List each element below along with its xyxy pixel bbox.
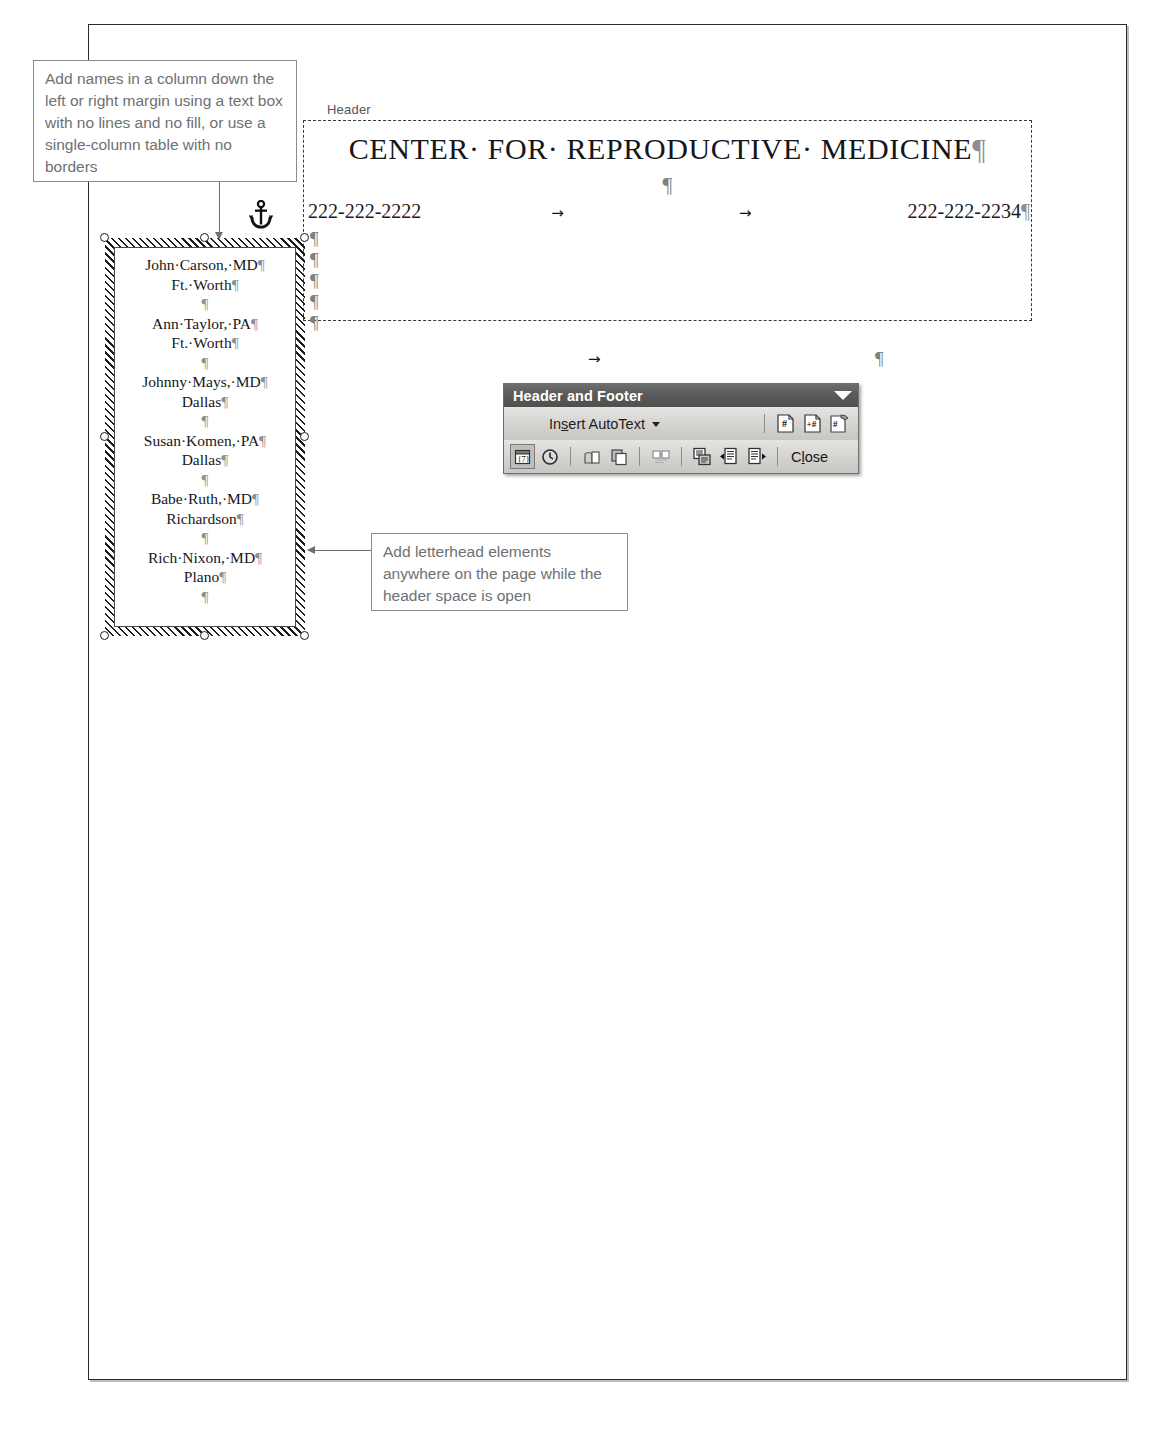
- header-region-label: Header: [323, 102, 375, 117]
- switch-header-footer-icon: [692, 446, 713, 467]
- resize-handle-bottom-left[interactable]: [100, 631, 109, 640]
- callout-add-letterhead-text: Add letterhead elements anywhere on the …: [383, 541, 617, 607]
- pilcrow-mark: ¶: [972, 132, 986, 165]
- toolbar-row-2: {7}: [504, 440, 858, 473]
- blank-line: ¶: [117, 294, 293, 314]
- show-hide-document-text-button[interactable]: [606, 444, 631, 469]
- insert-time-button[interactable]: [537, 444, 562, 469]
- insert-autotext-button[interactable]: Insert AutoText: [549, 416, 660, 432]
- list-item: Johnny·Mays,·MD¶: [117, 372, 293, 392]
- pilcrow-mark: ¶: [255, 549, 262, 566]
- page-setup-button[interactable]: [579, 444, 604, 469]
- doctor-name: John·Carson,·MD: [145, 256, 257, 273]
- pilcrow-mark: ¶: [310, 249, 319, 270]
- toolbar-title: Header and Footer: [513, 388, 643, 404]
- svg-text:#: #: [782, 418, 787, 429]
- pilcrow-mark: ¶: [310, 291, 319, 312]
- chevron-down-icon[interactable]: [652, 422, 660, 427]
- pilcrow-mark: ¶: [251, 315, 258, 332]
- toolbar-title-bar[interactable]: Header and Footer: [504, 384, 858, 407]
- pilcrow-mark: ¶: [201, 354, 208, 371]
- show-previous-button[interactable]: [717, 444, 742, 469]
- header-and-footer-toolbar[interactable]: Header and Footer Insert AutoText # +# #: [503, 383, 859, 474]
- resize-handle-bottom-right[interactable]: [300, 631, 309, 640]
- doctor-city: Richardson: [166, 510, 237, 527]
- page-number-icon: #: [775, 413, 796, 434]
- pilcrow-mark: ¶: [258, 256, 265, 273]
- calendar-icon: {7}: [513, 447, 533, 467]
- format-page-number-icon: #: [829, 413, 850, 434]
- toolbar-separator: [570, 447, 571, 466]
- show-next-button[interactable]: [744, 444, 769, 469]
- callout-add-letterhead: Add letterhead elements anywhere on the …: [371, 533, 628, 611]
- blank-line: ¶: [117, 411, 293, 431]
- pilcrow-mark: ¶: [201, 471, 208, 488]
- close-button[interactable]: Close: [791, 449, 828, 465]
- doctor-name: Susan·Komen,·PA: [144, 432, 259, 449]
- callout-add-names-text: Add names in a column down the left or r…: [45, 68, 286, 178]
- svg-text:#: #: [833, 419, 838, 429]
- resize-handle-middle-left[interactable]: [100, 432, 109, 441]
- resize-handle-bottom-center[interactable]: [200, 631, 209, 640]
- list-item: Ft.·Worth¶: [117, 275, 293, 295]
- list-item: Ann·Taylor,·PA¶: [117, 314, 293, 334]
- names-list[interactable]: John·Carson,·MD¶ Ft.·Worth¶ ¶ Ann·Taylor…: [117, 250, 293, 624]
- same-as-previous-button[interactable]: [648, 444, 673, 469]
- toolbar-separator: [681, 447, 682, 466]
- list-item: John·Carson,·MD¶: [117, 255, 293, 275]
- pilcrow-mark: ¶: [310, 270, 319, 291]
- insert-date-button[interactable]: {7}: [510, 444, 535, 469]
- list-item: Rich·Nixon,·MD¶: [117, 548, 293, 568]
- pilcrow-mark: ¶: [875, 348, 884, 370]
- letterhead-title: CENTER· FOR· REPRODUCTIVE· MEDICINE¶: [303, 132, 1032, 166]
- close-label-post: ose: [805, 449, 828, 465]
- doctor-name: Johnny·Mays,·MD: [142, 373, 260, 390]
- pilcrow-mark: ¶: [310, 228, 319, 249]
- clock-icon: [540, 447, 560, 467]
- insert-page-number-button[interactable]: #: [773, 411, 798, 436]
- pilcrow-mark: ¶: [1021, 200, 1030, 222]
- tab-mark-icon: →: [551, 204, 564, 222]
- header-phone-row: 222-222-2222 → → 222-222-2234¶: [308, 200, 1030, 223]
- doctor-city: Ft.·Worth: [171, 334, 231, 351]
- callout-connector-arrowhead: [215, 232, 223, 240]
- resize-handle-top-center[interactable]: [200, 233, 209, 242]
- blank-line: ¶: [117, 587, 293, 607]
- doctor-city: Dallas: [182, 393, 222, 410]
- resize-handle-top-right[interactable]: [300, 233, 309, 242]
- pilcrow-mark: ¶: [201, 529, 208, 546]
- list-item: Richardson¶: [117, 509, 293, 529]
- format-page-number-button[interactable]: #: [827, 411, 852, 436]
- list-item: Babe·Ruth,·MD¶: [117, 489, 293, 509]
- callout-connector-line: [314, 550, 371, 551]
- phone-left: 222-222-2222: [308, 200, 421, 223]
- switch-header-footer-button[interactable]: [690, 444, 715, 469]
- insert-number-of-pages-button[interactable]: +#: [800, 411, 825, 436]
- close-label-pre: C: [791, 449, 801, 465]
- resize-handle-middle-right[interactable]: [300, 432, 309, 441]
- pilcrow-mark: ¶: [221, 451, 228, 468]
- header-pilcrow-column: ¶ ¶ ¶ ¶ ¶: [310, 228, 319, 333]
- resize-handle-top-left[interactable]: [100, 233, 109, 242]
- toolbar-row-1: Insert AutoText # +# #: [504, 407, 858, 440]
- pilcrow-mark: ¶: [252, 490, 259, 507]
- pilcrow-mark: ¶: [232, 334, 239, 351]
- doctor-city: Plano: [184, 568, 219, 585]
- pilcrow-mark: ¶: [259, 432, 266, 449]
- autotext-label-post: ert AutoText: [568, 416, 645, 432]
- pilcrow-mark: ¶: [221, 393, 228, 410]
- pilcrow-mark: ¶: [237, 510, 244, 527]
- callout-connector-line: [219, 182, 220, 238]
- chevron-down-icon[interactable]: [834, 391, 852, 400]
- header-blank-line-pilcrow: ¶: [303, 172, 1032, 198]
- names-text-box[interactable]: John·Carson,·MD¶ Ft.·Worth¶ ¶ Ann·Taylor…: [105, 238, 305, 636]
- toolbar-separator: [777, 447, 778, 466]
- page-setup-icon: [582, 447, 602, 467]
- pilcrow-mark: ¶: [201, 588, 208, 605]
- tab-mark-icon: →: [588, 350, 601, 368]
- show-previous-icon: [719, 446, 740, 467]
- svg-text:{7}: {7}: [517, 453, 529, 463]
- toolbar-separator: [639, 447, 640, 466]
- autotext-label-pre: In: [549, 416, 561, 432]
- list-item: Dallas¶: [117, 392, 293, 412]
